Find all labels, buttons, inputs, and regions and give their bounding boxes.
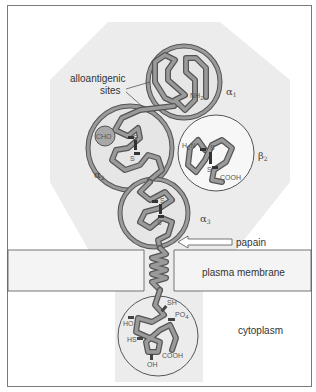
cooh-label-cytoplasm: COOH [162, 352, 183, 359]
cooh-label-beta2: COOH [220, 174, 241, 181]
cytoplasm-label: cytoplasm [238, 325, 283, 336]
cho-label: CHO [96, 133, 112, 140]
s-label-alpha2-bottom: S [130, 155, 135, 162]
papain-label: papain [236, 237, 266, 248]
s-label-alpha2-top: S [133, 134, 138, 141]
s-label-beta2-top: S [210, 144, 215, 151]
mhc-class-i-diagram: alloantigenic sites NH2 α1 α2 α3 β2 CHO … [0, 0, 316, 392]
sh-label: SH [167, 299, 177, 306]
s-label-alpha3-top: S [160, 197, 165, 204]
oh-label: OH [147, 361, 158, 368]
alloantigenic-label: alloantigenic [70, 73, 126, 84]
s-label-alpha3-bottom: S [157, 219, 162, 226]
hs-label: HS [127, 336, 137, 343]
ho-label: HO [123, 320, 134, 327]
s-label-beta2-bottom: S [207, 166, 212, 173]
sites-label: sites [100, 85, 121, 96]
plasma-membrane-label: plasma membrane [202, 267, 285, 278]
